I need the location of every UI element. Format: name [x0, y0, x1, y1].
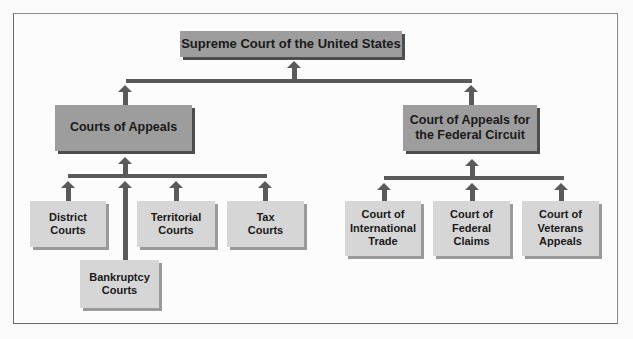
arrow-up-icon — [554, 183, 568, 190]
arrow-up-icon — [61, 181, 75, 188]
arrow-up-icon — [169, 181, 183, 188]
arrow-up-icon — [118, 181, 132, 188]
node-federal-claims: Court of Federal Claims — [433, 201, 510, 256]
connector-shaft — [382, 189, 387, 201]
node-label: Tax Courts — [248, 211, 283, 238]
arrow-up-icon — [258, 181, 272, 188]
arrow-up-icon — [118, 85, 132, 92]
node-label: Supreme Court of the United States — [181, 36, 401, 52]
connector-shaft — [470, 189, 475, 201]
arrow-up-icon — [377, 183, 391, 190]
connector-bar-top — [126, 79, 472, 83]
node-courts-of-appeals: Courts of Appeals — [55, 105, 192, 151]
connector-shaft — [123, 91, 128, 105]
arrow-up-icon — [465, 183, 479, 190]
node-label: Territorial Courts — [151, 211, 202, 238]
node-international-trade: Court of International Trade — [345, 201, 421, 256]
connector-bar-left — [68, 174, 267, 178]
connector-shaft — [66, 187, 71, 201]
arrow-up-icon — [118, 157, 132, 164]
arrow-up-icon — [465, 159, 479, 166]
node-label: Court of Veterans Appeals — [538, 208, 584, 248]
connector-shaft — [469, 91, 474, 105]
node-label: Court of Federal Claims — [450, 208, 493, 248]
connector-bar-right — [384, 176, 564, 180]
node-federal-circuit: Court of Appeals for the Federal Circuit — [403, 105, 537, 151]
node-label: District Courts — [49, 211, 87, 238]
node-veterans-appeals: Court of Veterans Appeals — [522, 201, 599, 256]
node-label: Courts of Appeals — [70, 120, 177, 135]
connector-shaft — [263, 187, 268, 201]
node-territorial-courts: Territorial Courts — [137, 201, 215, 247]
node-label: Bankruptcy Courts — [89, 271, 150, 298]
arrow-up-icon — [287, 61, 301, 68]
connector-shaft — [559, 189, 564, 201]
arrow-up-icon — [464, 85, 478, 92]
node-label: Court of International Trade — [350, 208, 416, 248]
connector-shaft — [123, 187, 128, 260]
node-label: Court of Appeals for the Federal Circuit — [410, 113, 530, 144]
node-supreme-court: Supreme Court of the United States — [180, 31, 402, 57]
node-tax-courts: Tax Courts — [227, 201, 304, 247]
node-district-courts: District Courts — [30, 201, 106, 247]
node-bankruptcy-courts: Bankruptcy Courts — [80, 260, 159, 308]
connector-shaft — [174, 187, 179, 201]
